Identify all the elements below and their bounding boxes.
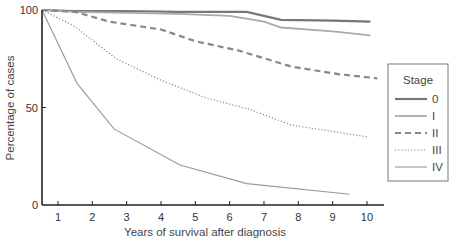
- x-tick-label: 7: [261, 211, 267, 223]
- legend-label-stage-III: III: [432, 144, 442, 156]
- axes: 12345678910050100: [20, 4, 384, 223]
- x-tick-label: 4: [158, 211, 164, 223]
- x-tick-label: 8: [295, 211, 301, 223]
- legend-title: Stage: [403, 74, 433, 86]
- x-tick-label: 3: [124, 211, 130, 223]
- x-axis-title: Years of survival after diagnosis: [124, 226, 286, 238]
- legend-label-stage-IV: IV: [432, 161, 443, 173]
- plot-lines: [42, 10, 377, 194]
- y-axis-title: Percentage of cases: [4, 55, 16, 160]
- legend: Stage 0IIIIIIIV: [388, 64, 448, 181]
- legend-label-stage-I: I: [432, 110, 435, 122]
- x-tick-label: 9: [330, 211, 336, 223]
- x-tick-label: 10: [361, 211, 373, 223]
- x-tick-label: 1: [55, 211, 61, 223]
- x-tick-label: 5: [192, 211, 198, 223]
- legend-label-stage-0: 0: [432, 93, 438, 105]
- y-tick-label: 50: [26, 102, 38, 114]
- legend-label-stage-II: II: [432, 127, 438, 139]
- x-tick-label: 2: [89, 211, 95, 223]
- series-line-stage-III: [42, 10, 367, 137]
- series-line-stage-I: [42, 10, 370, 35]
- y-tick-label: 0: [32, 199, 38, 211]
- x-tick-label: 6: [227, 211, 233, 223]
- series-line-stage-IV: [42, 10, 350, 194]
- survival-chart: 12345678910050100 Percentage of cases Ye…: [0, 0, 449, 246]
- y-tick-label: 100: [20, 4, 38, 16]
